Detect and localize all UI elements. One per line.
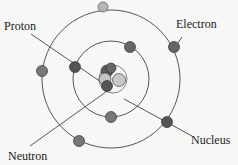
atom-diagram: Proton Electron Nucleus Neutron <box>0 0 238 165</box>
nucleus-label: Nucleus <box>191 134 230 146</box>
neutron-label: Neutron <box>8 150 47 162</box>
neutron-leader-line <box>30 89 110 146</box>
electron <box>125 42 136 53</box>
electron <box>70 62 81 73</box>
electron <box>169 42 180 53</box>
electron <box>106 112 117 123</box>
electron <box>162 117 173 128</box>
electron-label: Electron <box>176 18 217 30</box>
nucleus-leader-line <box>124 99 192 136</box>
proton-particle <box>102 81 113 92</box>
proton-particle <box>106 63 116 73</box>
electron <box>98 2 108 12</box>
neutron-particle <box>113 74 126 87</box>
electron <box>37 66 48 77</box>
electron <box>74 136 85 147</box>
proton-label: Proton <box>4 20 36 32</box>
